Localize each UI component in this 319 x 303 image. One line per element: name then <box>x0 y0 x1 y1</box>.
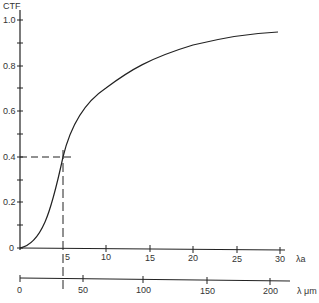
secondary-x-axis <box>20 278 290 281</box>
y-tick-label: 0.4 <box>3 152 16 162</box>
secondary-x-tick-label: 150 <box>200 286 215 296</box>
secondary-x-tick-label: 0 <box>17 285 22 295</box>
x-axis-label: λa <box>296 254 306 264</box>
x-axis <box>20 248 285 250</box>
x-tick-label: 15 <box>145 253 155 263</box>
y-tick-label: 0 <box>9 243 14 253</box>
x-tick-label: 25 <box>232 254 242 264</box>
y-axis-label: CTF <box>3 1 21 11</box>
y-tick-label: 0.8 <box>3 61 16 71</box>
secondary-x-tick-label: 100 <box>136 285 151 295</box>
secondary-x-tick-label: 50 <box>78 285 88 295</box>
x-tick-label: 5 <box>65 252 70 262</box>
y-tick-label: 1.0 <box>3 15 16 25</box>
x-tick-label: 30 <box>275 254 285 264</box>
y-tick-label: 0.6 <box>3 106 16 116</box>
secondary-x-axis-label: λ μm <box>297 286 317 296</box>
secondary-x-tick-label: 200 <box>263 286 278 296</box>
ctf-chart: CTF 1.0 0.8 0.6 0.4 0.2 0 5 10 15 20 25 … <box>0 0 319 303</box>
ctf-curve <box>20 32 278 248</box>
y-tick-label: 0.2 <box>3 197 16 207</box>
x-tick-label: 20 <box>188 253 198 263</box>
x-tick-label: 10 <box>101 252 111 262</box>
